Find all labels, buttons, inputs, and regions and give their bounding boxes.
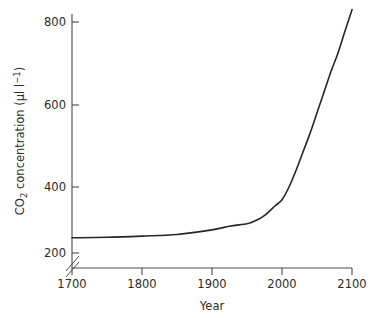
y-tick-label-400: 400 bbox=[44, 180, 66, 194]
chart-figure: 800 600 400 200 1700 1800 1900 2000 2100 bbox=[0, 0, 378, 318]
y-axis-title-superscript: −1 bbox=[12, 71, 22, 84]
x-tick-label-2100: 2100 bbox=[337, 277, 366, 291]
svg-text:CO2 concentration (μl l−1): CO2 concentration (μl l−1) bbox=[12, 67, 29, 215]
y-tick-label-600: 600 bbox=[44, 98, 66, 112]
x-tick-label-1800: 1800 bbox=[127, 277, 156, 291]
y-tick-label-200: 200 bbox=[44, 246, 66, 260]
y-axis-title: CO2 concentration (μl l−1) bbox=[12, 67, 29, 215]
co2-concentration-line-chart: 800 600 400 200 1700 1800 1900 2000 2100 bbox=[0, 0, 378, 318]
x-tick-label-1900: 1900 bbox=[197, 277, 226, 291]
x-tick-label-2000: 2000 bbox=[267, 277, 296, 291]
y-axis-title-middle: concentration (μl l bbox=[13, 84, 27, 193]
y-tick-label-800: 800 bbox=[44, 15, 66, 29]
x-axis-title: Year bbox=[199, 299, 225, 313]
y-axis-title-prefix: CO bbox=[13, 198, 27, 215]
chart-background bbox=[0, 0, 378, 318]
x-tick-label-1700: 1700 bbox=[57, 277, 86, 291]
y-axis-title-suffix: ) bbox=[13, 67, 27, 72]
